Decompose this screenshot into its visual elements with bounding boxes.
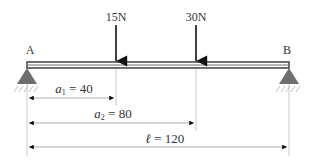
- dimension-a1: a1 = 40: [29, 81, 114, 98]
- dimension-a2-label: a2 = 80: [94, 106, 131, 122]
- load-2: 30N: [186, 10, 207, 61]
- pin-support-icon: [17, 68, 37, 84]
- dimension-a1-label: a1 = 40: [55, 81, 92, 97]
- pin-support-icon: [279, 68, 299, 84]
- ground-hatch-icon: [276, 86, 300, 92]
- load-2-label: 30N: [186, 10, 207, 24]
- support-label-b: B: [283, 43, 291, 57]
- support-label-a: A: [26, 43, 35, 57]
- load-1: 15N: [106, 10, 127, 61]
- dimension-a2: a2 = 80: [29, 106, 194, 123]
- dimension-length-label: ℓ = 120: [146, 131, 185, 146]
- beam-diagram: A B 15N 30N a1 = 40 a2 = 80 ℓ = 120: [0, 0, 314, 168]
- dimension-length: ℓ = 120: [29, 131, 287, 147]
- ground-hatch-icon: [14, 86, 38, 92]
- support-b: [276, 68, 300, 92]
- support-a: [14, 68, 38, 92]
- load-1-label: 15N: [106, 10, 127, 24]
- beam: [27, 62, 289, 68]
